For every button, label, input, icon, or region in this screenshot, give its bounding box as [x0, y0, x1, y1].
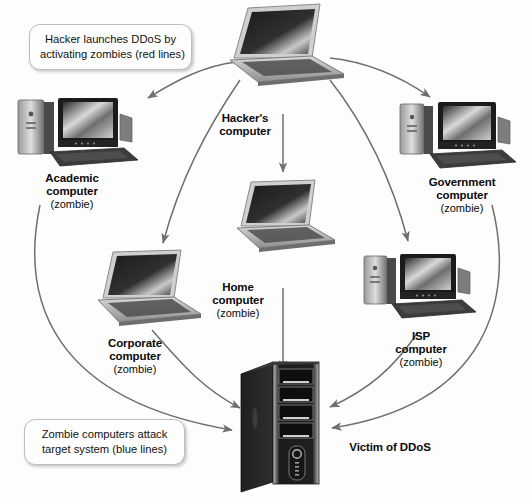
zombie-callout-line2: target system (blue lines) [35, 442, 174, 457]
government-computer-device [396, 100, 522, 170]
isp-computer-label-line2: computer [373, 343, 469, 356]
hackers-computer-label-line2: computer [200, 125, 290, 138]
victim-server-label-line1: Victim of DDoS [330, 441, 450, 454]
academic-computer-label-line2: computer [20, 185, 124, 198]
hacker-callout-line1: Hacker launches DDoS by [40, 32, 181, 47]
isp-computer-device [360, 252, 482, 322]
government-computer-label-line2: computer [408, 189, 516, 202]
government-computer-label-line1: Government [408, 176, 516, 189]
hacker-callout-line2: activating zombies (red lines) [40, 47, 181, 62]
hackers-computer-label-line1: Hacker's [200, 112, 290, 125]
hackers-computer-device [228, 2, 346, 86]
arrow-hacker-to-corporate [163, 80, 240, 243]
hacker-callout: Hacker launches DDoS by activating zombi… [29, 24, 192, 70]
zombie-callout: Zombie computers attack target system (b… [24, 419, 185, 465]
hackers-computer-label: Hacker's computer [200, 112, 290, 138]
isp-computer-label-line1: ISP [373, 330, 469, 343]
academic-computer-label-line1: Academic [20, 172, 124, 185]
home-computer-device [233, 178, 337, 252]
corporate-computer-label: Corporate computer (zombie) [85, 337, 185, 375]
corporate-computer-label-sub: (zombie) [85, 363, 185, 375]
corporate-computer-device [95, 248, 203, 326]
academic-computer-device [12, 96, 142, 168]
victim-server-label: Victim of DDoS [330, 441, 450, 454]
academic-computer-label-sub: (zombie) [20, 198, 124, 210]
home-computer-label: Home computer (zombie) [190, 281, 286, 319]
government-computer-label: Government computer (zombie) [408, 176, 516, 214]
government-computer-label-sub: (zombie) [408, 202, 516, 214]
academic-computer-label: Academic computer (zombie) [20, 172, 124, 210]
home-computer-label-line1: Home [190, 281, 286, 294]
isp-computer-label-sub: (zombie) [373, 356, 469, 368]
home-computer-label-line2: computer [190, 294, 286, 307]
home-computer-label-sub: (zombie) [190, 307, 286, 319]
corporate-computer-label-line1: Corporate [85, 337, 185, 350]
zombie-callout-line1: Zombie computers attack [35, 427, 174, 442]
corporate-computer-label-line2: computer [85, 350, 185, 363]
victim-server-device [239, 356, 323, 496]
ddos-diagram: Hacker's computer Academic computer (zom… [0, 0, 530, 503]
isp-computer-label: ISP computer (zombie) [373, 330, 469, 368]
